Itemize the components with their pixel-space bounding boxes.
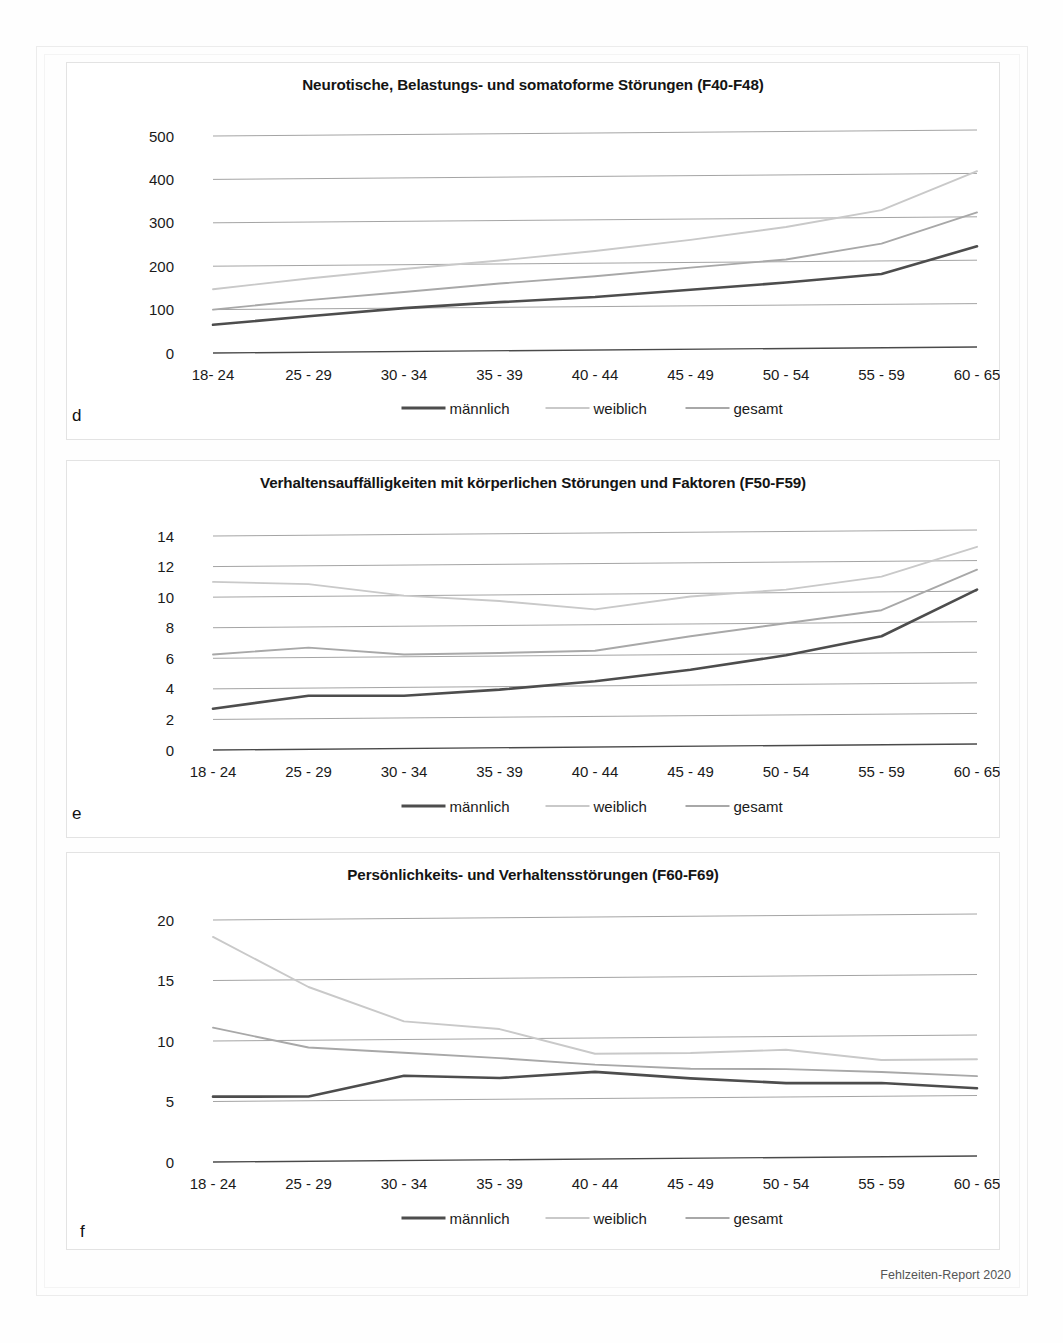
- x-axis-tick-label: 30 - 34: [381, 763, 428, 780]
- chart-panel-f: Persönlichkeits- und Verhaltensstörungen…: [66, 852, 1000, 1250]
- chart-panel-e: Verhaltensauffälligkeiten mit körperlich…: [66, 460, 1000, 838]
- chart-svg-container-f: 0510152018 - 2425 - 2930 - 3435 - 3940 -…: [66, 852, 1000, 1254]
- x-axis-tick-label: 50 - 54: [763, 763, 810, 780]
- x-axis-tick-label: 25 - 29: [285, 1175, 332, 1192]
- panel-letter-e: e: [72, 804, 81, 824]
- series-group: [213, 937, 977, 1097]
- report-footer: Fehlzeiten-Report 2020: [880, 1268, 1011, 1282]
- y-axis-tick-label: 400: [149, 171, 174, 188]
- series-line-weiblich: [213, 171, 977, 289]
- legend-label-männlich: männlich: [450, 400, 510, 417]
- y-axis-tick-label: 2: [166, 711, 174, 728]
- x-axis-tick-label: 40 - 44: [572, 1175, 619, 1192]
- x-axis-tick-label: 40 - 44: [572, 366, 619, 383]
- y-axis-tick-label: 200: [149, 258, 174, 275]
- line-chart-d: 010020030040050018- 2425 - 2930 - 3435 -…: [66, 62, 1000, 440]
- y-axis-tick-label: 15: [157, 972, 174, 989]
- x-axis-tick-label: 25 - 29: [285, 366, 332, 383]
- panel-letter-d: d: [72, 406, 81, 426]
- chart-legend: männlichweiblichgesamt: [402, 1210, 784, 1227]
- x-axis-tick-label: 35 - 39: [476, 763, 523, 780]
- line-chart-e: 0246810121418 - 2425 - 2930 - 3435 - 394…: [66, 460, 1000, 838]
- chart-legend: männlichweiblichgesamt: [402, 798, 784, 815]
- x-axis-tick-label: 45 - 49: [667, 763, 714, 780]
- x-axis-tick-label: 18- 24: [192, 366, 235, 383]
- legend-label-männlich: männlich: [450, 798, 510, 815]
- chart-panel-d: Neurotische, Belastungs- und somatoforme…: [66, 62, 1000, 440]
- legend-label-gesamt: gesamt: [734, 798, 784, 815]
- series-line-gesamt: [213, 1028, 977, 1076]
- y-axis-tick-label: 10: [157, 589, 174, 606]
- y-axis-tick-label: 14: [157, 528, 174, 545]
- x-axis-tick-label: 45 - 49: [667, 1175, 714, 1192]
- x-axis-tick-label: 45 - 49: [667, 366, 714, 383]
- x-axis-labels: 18- 2425 - 2930 - 3435 - 3940 - 4445 - 4…: [192, 366, 1000, 383]
- x-axis-tick-label: 55 - 59: [858, 763, 905, 780]
- y-axis-tick-label: 10: [157, 1033, 174, 1050]
- series-group: [213, 171, 977, 325]
- y-axis-tick-label: 0: [166, 1154, 174, 1171]
- series-line-männlich: [213, 246, 977, 324]
- y-axis-tick-label: 0: [166, 345, 174, 362]
- y-axis-tick-label: 12: [157, 558, 174, 575]
- x-axis-tick-label: 40 - 44: [572, 763, 619, 780]
- x-axis-tick-label: 50 - 54: [763, 1175, 810, 1192]
- series-line-weiblich: [213, 547, 977, 610]
- line-chart-f: 0510152018 - 2425 - 2930 - 3435 - 3940 -…: [66, 852, 1000, 1250]
- x-axis-labels: 18 - 2425 - 2930 - 3435 - 3940 - 4445 - …: [190, 1175, 1000, 1192]
- y-axis-tick-label: 5: [166, 1093, 174, 1110]
- series-group: [213, 547, 977, 709]
- legend-label-männlich: männlich: [450, 1210, 510, 1227]
- x-axis-labels: 18 - 2425 - 2930 - 3435 - 3940 - 4445 - …: [190, 763, 1000, 780]
- x-axis-tick-label: 50 - 54: [763, 366, 810, 383]
- series-line-gesamt: [213, 570, 977, 655]
- chart-svg-container-d: 010020030040050018- 2425 - 2930 - 3435 -…: [66, 62, 1000, 444]
- y-axis-tick-label: 8: [166, 619, 174, 636]
- legend-label-weiblich: weiblich: [593, 798, 647, 815]
- x-axis-tick-label: 35 - 39: [476, 366, 523, 383]
- x-axis-tick-label: 18 - 24: [190, 1175, 237, 1192]
- series-line-weiblich: [213, 937, 977, 1060]
- y-axis-tick-label: 20: [157, 912, 174, 929]
- y-gridlines: 0100200300400500: [149, 128, 977, 362]
- legend-label-gesamt: gesamt: [734, 400, 784, 417]
- y-axis-tick-label: 500: [149, 128, 174, 145]
- y-axis-tick-label: 100: [149, 301, 174, 318]
- chart-svg-container-e: 0246810121418 - 2425 - 2930 - 3435 - 394…: [66, 460, 1000, 842]
- x-axis-tick-label: 55 - 59: [858, 1175, 905, 1192]
- y-axis-tick-label: 6: [166, 650, 174, 667]
- x-axis-tick-label: 55 - 59: [858, 366, 905, 383]
- x-axis-tick-label: 30 - 34: [381, 366, 428, 383]
- x-axis-tick-label: 60 - 65: [954, 366, 1000, 383]
- x-axis-tick-label: 25 - 29: [285, 763, 332, 780]
- panel-letter-f: f: [80, 1222, 85, 1242]
- legend-label-weiblich: weiblich: [593, 400, 647, 417]
- legend-label-gesamt: gesamt: [734, 1210, 784, 1227]
- chart-legend: männlichweiblichgesamt: [402, 400, 784, 417]
- x-axis-tick-label: 60 - 65: [954, 763, 1000, 780]
- y-axis-tick-label: 300: [149, 214, 174, 231]
- y-axis-tick-label: 4: [166, 680, 174, 697]
- x-axis-tick-label: 35 - 39: [476, 1175, 523, 1192]
- y-axis-tick-label: 0: [166, 742, 174, 759]
- x-axis-tick-label: 30 - 34: [381, 1175, 428, 1192]
- legend-label-weiblich: weiblich: [593, 1210, 647, 1227]
- x-axis-tick-label: 18 - 24: [190, 763, 237, 780]
- series-line-männlich: [213, 1072, 977, 1097]
- x-axis-tick-label: 60 - 65: [954, 1175, 1000, 1192]
